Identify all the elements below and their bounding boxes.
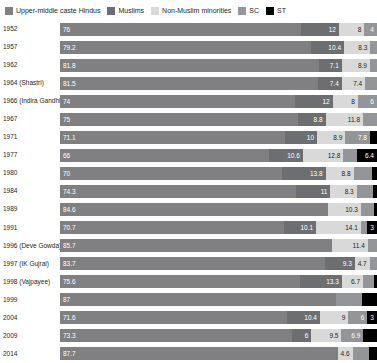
bar-value-label: 70.7 xyxy=(60,224,76,231)
bar-value-label: 75 xyxy=(60,116,70,123)
bar-value-label: 12 xyxy=(329,26,339,33)
bar-value-label: 11.8 xyxy=(348,116,363,123)
bar-value-label: 7.4 xyxy=(353,80,365,87)
bar-segment: 6 xyxy=(292,329,311,342)
legend-label: Upper-middle caste Hindus xyxy=(16,7,100,15)
bar-value-label: 10.4 xyxy=(328,44,344,51)
bar-segment: 10.1 xyxy=(284,221,316,234)
square-swatch-icon xyxy=(5,7,13,15)
row-category-label: 1991 xyxy=(0,224,60,232)
bar-value-label: 10.3 xyxy=(345,206,361,213)
chart-row: 1967758.811.8 xyxy=(0,110,377,128)
bar-segment: 76 xyxy=(60,23,301,36)
bar-value-label: 3 xyxy=(370,314,377,321)
row-category-label: 1962 xyxy=(0,61,60,69)
bar-value-label: 6 xyxy=(361,314,368,321)
stacked-bar: 79.210.48.3 xyxy=(60,41,377,54)
bar-value-label: 4.7 xyxy=(358,260,370,267)
bar-value-label: 7.8 xyxy=(358,134,370,141)
bar-segment xyxy=(363,329,377,342)
bar-segment: 10 xyxy=(285,131,317,144)
bar-segment: 8.3 xyxy=(344,41,370,54)
row-category-label: 1998 (Vajpayee) xyxy=(0,278,60,286)
bar-value-label: 8.3 xyxy=(345,188,357,195)
bar-value-label: 74 xyxy=(60,98,70,105)
chart-row: 1997 (IK Gujral)83.79.34.7 xyxy=(0,255,377,273)
row-category-label: 1997 (IK Gujral) xyxy=(0,260,60,268)
chart-row: 1998 (Vajpayee)75.613.36.7 xyxy=(0,273,377,291)
bar-segment: 12 xyxy=(301,23,339,36)
chart-row: 200471.610.4963 xyxy=(0,309,377,327)
bar-value-label: 76 xyxy=(60,26,70,33)
bar-segment: 70.7 xyxy=(60,221,284,234)
chart-row: 1966 (Indira Gandhi)741286 xyxy=(0,92,377,110)
bar-segment xyxy=(354,167,373,180)
bar-value-label: 6 xyxy=(305,332,312,339)
bar-value-label: 10.6 xyxy=(287,152,303,159)
bar-segment xyxy=(370,41,377,54)
bar-segment: 79.2 xyxy=(60,41,311,54)
bar-value-label: 81.8 xyxy=(60,62,76,69)
bar-segment: 7.4 xyxy=(318,77,341,90)
bar-segment: 66 xyxy=(60,149,269,162)
chart-row: 200973.369.56.9 xyxy=(0,327,377,345)
bar-value-label: 13.3 xyxy=(326,278,342,285)
stacked-bar: 75.613.36.7 xyxy=(60,275,377,288)
row-category-label: 1966 (Indira Gandhi) xyxy=(0,97,60,105)
bar-segment: 7.1 xyxy=(319,59,342,72)
bar-segment xyxy=(363,275,374,288)
chart-row: 198474.3118.3 xyxy=(0,182,377,200)
stacked-bar: 7013.88.8 xyxy=(60,167,377,180)
bar-segment: 4.7 xyxy=(355,257,370,270)
bar-segment xyxy=(370,59,377,72)
stacked-bar: 71.1108.97.8 xyxy=(60,131,377,144)
bar-value-label: 83.7 xyxy=(60,260,76,267)
bar-value-label: 87 xyxy=(60,296,70,303)
plot-area: 1952761284195779.210.48.3196281.87.18.91… xyxy=(0,20,377,318)
bar-value-label: 11.4 xyxy=(353,242,368,249)
row-category-label: 1996 (Deve Gowda) xyxy=(0,242,60,250)
bar-segment: 75.6 xyxy=(60,275,300,288)
stacked-bar: 74.3118.3 xyxy=(60,185,377,198)
bar-segment: 10.3 xyxy=(328,203,361,216)
bar-value-label: 79.2 xyxy=(60,44,76,51)
chart-row: 19807013.88.8 xyxy=(0,164,377,182)
bar-segment: 8 xyxy=(333,95,358,108)
bar-segment xyxy=(369,347,377,360)
bar-value-label: 12.8 xyxy=(328,152,344,159)
bar-segment: 81.5 xyxy=(60,77,318,90)
row-category-label: 1989 xyxy=(0,205,60,213)
bar-value-label: 4.6 xyxy=(341,350,353,357)
bar-value-label: 87.7 xyxy=(60,350,76,357)
bar-segment xyxy=(362,293,377,306)
legend-item: Non-Muslim minorities xyxy=(151,7,231,15)
bar-segment: 6.4 xyxy=(357,149,377,162)
bar-segment: 73.3 xyxy=(60,329,292,342)
bar-value-label: 84.6 xyxy=(60,206,76,213)
bar-segment: 8.8 xyxy=(298,113,326,126)
stacked-bar: 73.369.56.9 xyxy=(60,329,377,342)
bar-segment: 3 xyxy=(367,221,377,234)
chart-row: 201487.74.6 xyxy=(0,345,377,363)
bar-value-label: 85.7 xyxy=(60,242,76,249)
bar-segment xyxy=(361,203,374,216)
bar-segment: 84.6 xyxy=(60,203,328,216)
stacked-bar: 85.711.4 xyxy=(60,239,377,252)
chart-row: 1952761284 xyxy=(0,20,377,38)
stacked-bar: 81.57.47.4 xyxy=(60,77,377,90)
bar-value-label: 71.6 xyxy=(60,314,76,321)
bar-value-label: 13.8 xyxy=(310,170,326,177)
bar-segment: 7.8 xyxy=(345,131,370,144)
stacked-bar: 81.87.18.9 xyxy=(60,59,377,72)
bar-segment: 14.1 xyxy=(316,221,361,234)
bar-segment: 13.3 xyxy=(300,275,342,288)
square-swatch-icon xyxy=(107,7,115,15)
bar-segment: 10.4 xyxy=(311,41,344,54)
bar-segment xyxy=(363,113,377,126)
bar-segment: 70 xyxy=(60,167,282,180)
row-category-label: 2009 xyxy=(0,332,60,340)
legend-item: Muslims xyxy=(107,7,144,15)
bar-segment: 87 xyxy=(60,293,336,306)
bar-segment: 81.8 xyxy=(60,59,319,72)
